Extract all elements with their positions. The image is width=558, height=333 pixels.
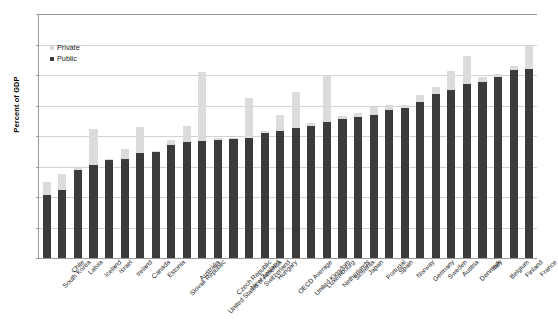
bar-slot — [261, 14, 269, 258]
bar-stack[interactable] — [214, 138, 222, 258]
bar-segment-public[interactable] — [401, 108, 409, 258]
bar-slot — [323, 14, 331, 258]
chart-legend: Private Public — [50, 43, 80, 64]
bar-stack[interactable] — [261, 131, 269, 258]
bars-layer — [39, 14, 537, 258]
bar-segment-public[interactable] — [167, 145, 175, 258]
bar-stack[interactable] — [401, 105, 409, 258]
bar-slot — [478, 14, 486, 258]
bar-segment-public[interactable] — [43, 195, 51, 258]
bar-segment-private[interactable] — [323, 75, 331, 122]
bar-segment-public[interactable] — [463, 84, 471, 258]
bar-stack[interactable] — [121, 149, 129, 258]
bar-stack[interactable] — [105, 159, 113, 258]
bar-stack[interactable] — [478, 77, 486, 258]
bar-segment-private[interactable] — [463, 56, 471, 85]
bar-stack[interactable] — [89, 129, 97, 258]
bar-segment-public[interactable] — [198, 141, 206, 258]
bar-segment-private[interactable] — [43, 182, 51, 195]
bar-segment-public[interactable] — [261, 133, 269, 258]
bar-stack[interactable] — [323, 75, 331, 258]
bar-segment-private[interactable] — [136, 127, 144, 153]
bar-segment-private[interactable] — [447, 71, 455, 90]
bar-stack[interactable] — [276, 115, 284, 258]
legend-item-public: Public — [50, 54, 80, 65]
bar-slot — [432, 14, 440, 258]
bar-segment-public[interactable] — [152, 152, 160, 258]
bar-segment-public[interactable] — [58, 190, 66, 258]
bar-segment-public[interactable] — [183, 142, 191, 259]
bar-segment-public[interactable] — [136, 153, 144, 258]
bar-stack[interactable] — [292, 92, 300, 258]
bar-stack[interactable] — [432, 87, 440, 258]
bar-stack[interactable] — [43, 182, 51, 258]
bar-segment-private[interactable] — [370, 107, 378, 114]
bar-segment-public[interactable] — [416, 102, 424, 258]
bar-stack[interactable] — [74, 168, 82, 258]
bar-segment-public[interactable] — [74, 170, 82, 258]
bar-stack[interactable] — [447, 71, 455, 258]
legend-item-private: Private — [50, 43, 80, 54]
bar-stack[interactable] — [510, 66, 518, 258]
bar-segment-public[interactable] — [354, 117, 362, 258]
bar-slot — [89, 14, 97, 258]
bar-segment-public[interactable] — [245, 138, 253, 258]
bar-stack[interactable] — [416, 95, 424, 258]
bar-slot — [447, 14, 455, 258]
bar-stack[interactable] — [136, 127, 144, 258]
bar-segment-private[interactable] — [58, 174, 66, 190]
bar-stack[interactable] — [370, 107, 378, 258]
bar-stack[interactable] — [338, 116, 346, 258]
bar-segment-private[interactable] — [89, 129, 97, 166]
bar-segment-private[interactable] — [416, 95, 424, 102]
bar-stack[interactable] — [58, 174, 66, 258]
bar-stack[interactable] — [245, 98, 253, 258]
bar-segment-private[interactable] — [245, 98, 253, 139]
bar-slot — [167, 14, 175, 258]
bar-segment-public[interactable] — [292, 128, 300, 258]
bar-segment-public[interactable] — [105, 160, 113, 258]
bar-stack[interactable] — [183, 126, 191, 258]
bar-slot — [385, 14, 393, 258]
bar-segment-public[interactable] — [214, 140, 222, 258]
bar-segment-public[interactable] — [478, 82, 486, 258]
bar-segment-public[interactable] — [385, 110, 393, 258]
bar-stack[interactable] — [229, 138, 237, 258]
bar-segment-public[interactable] — [510, 70, 518, 258]
legend-swatch-private-icon — [50, 46, 54, 50]
bar-segment-public[interactable] — [307, 126, 315, 258]
bar-stack[interactable] — [385, 105, 393, 258]
bar-stack[interactable] — [463, 56, 471, 259]
bar-segment-public[interactable] — [494, 77, 502, 258]
bar-segment-private[interactable] — [525, 46, 533, 69]
bar-segment-public[interactable] — [370, 115, 378, 258]
bar-slot — [307, 14, 315, 258]
bar-slot — [229, 14, 237, 258]
bar-slot — [401, 14, 409, 258]
bar-segment-private[interactable] — [292, 92, 300, 128]
bar-segment-private[interactable] — [121, 149, 129, 159]
bar-segment-private[interactable] — [432, 87, 440, 94]
bar-stack[interactable] — [152, 151, 160, 258]
bar-stack[interactable] — [525, 46, 533, 258]
legend-swatch-public-icon — [50, 57, 54, 61]
bar-stack[interactable] — [307, 123, 315, 258]
bar-segment-public[interactable] — [229, 139, 237, 258]
bar-stack[interactable] — [354, 113, 362, 258]
bar-segment-public[interactable] — [89, 165, 97, 258]
bar-slot — [370, 14, 378, 258]
bar-stack[interactable] — [494, 74, 502, 258]
bar-segment-public[interactable] — [121, 159, 129, 258]
bar-segment-public[interactable] — [323, 122, 331, 258]
bar-segment-private[interactable] — [276, 115, 284, 131]
bar-stack[interactable] — [167, 140, 175, 258]
bar-slot — [494, 14, 502, 258]
bar-segment-private[interactable] — [198, 72, 206, 141]
bar-segment-public[interactable] — [447, 90, 455, 258]
bar-segment-private[interactable] — [183, 126, 191, 141]
bar-stack[interactable] — [198, 72, 206, 258]
bar-segment-public[interactable] — [525, 69, 533, 258]
bar-segment-public[interactable] — [432, 94, 440, 258]
bar-segment-public[interactable] — [276, 131, 284, 258]
bar-segment-public[interactable] — [338, 119, 346, 258]
